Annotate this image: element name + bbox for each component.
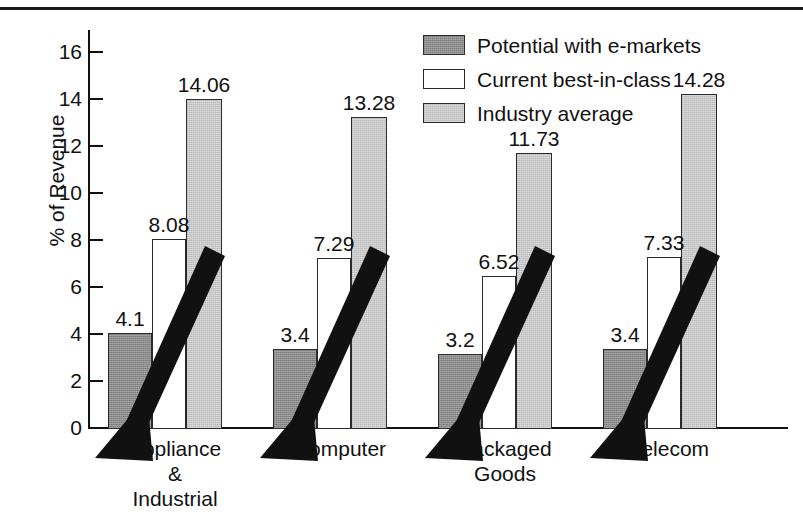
- legend-item-average[interactable]: Industry average: [423, 96, 701, 130]
- bar-computer-average[interactable]: [351, 117, 387, 429]
- bar-packaged-goods-potential[interactable]: [438, 354, 482, 429]
- legend-swatch-potential-icon: [423, 35, 465, 55]
- value-computer-average: 13.28: [327, 92, 411, 113]
- category-label-appliance-industrial: Appliance & Industrial: [85, 436, 265, 511]
- bar-telecom-potential[interactable]: [603, 349, 647, 429]
- y-tick-label-6: 6: [40, 276, 82, 297]
- bar-appliance-current[interactable]: [152, 239, 186, 429]
- value-packaged-goods-current: 6.52: [457, 251, 541, 272]
- bar-computer-potential[interactable]: [273, 349, 317, 429]
- legend-label-current: Current best-in-class: [477, 69, 671, 90]
- value-packaged-goods-potential: 3.2: [418, 329, 502, 350]
- bar-packaged-goods-current[interactable]: [482, 276, 516, 429]
- chart-legend: Potential with e-markets Current best-in…: [423, 28, 701, 130]
- category-label-computer: Computer: [250, 436, 430, 461]
- value-telecom-potential: 3.4: [583, 324, 667, 345]
- y-tick-label-8: 8: [40, 229, 82, 250]
- bar-appliance-average[interactable]: [186, 99, 222, 429]
- legend-label-potential: Potential with e-markets: [477, 35, 701, 56]
- y-tick-label-4: 4: [40, 323, 82, 344]
- y-tick-label-12: 12: [40, 135, 82, 156]
- legend-label-average: Industry average: [477, 103, 633, 124]
- legend-item-current[interactable]: Current best-in-class: [423, 62, 701, 96]
- value-appliance-current: 8.08: [127, 214, 211, 235]
- value-telecom-current: 7.33: [622, 232, 706, 253]
- legend-swatch-current-icon: [423, 69, 465, 89]
- figure-top-rule: [0, 7, 803, 10]
- category-label-line-1: Goods: [415, 461, 595, 486]
- category-label-line-1: &: [85, 461, 265, 486]
- legend-item-potential[interactable]: Potential with e-markets: [423, 28, 701, 62]
- category-label-packaged-goods: Packaged Goods: [415, 436, 595, 486]
- value-packaged-goods-average: 11.73: [492, 128, 576, 149]
- category-label-line-0: Packaged: [415, 436, 595, 461]
- value-appliance-potential: 4.1: [88, 308, 172, 329]
- value-appliance-average: 14.06: [162, 74, 246, 95]
- y-tick-label-0: 0: [40, 417, 82, 438]
- bar-appliance-potential[interactable]: [108, 333, 152, 429]
- category-label-telecom: Telecom: [580, 436, 760, 461]
- category-label-line-0: Computer: [250, 436, 430, 461]
- legend-swatch-average-icon: [423, 103, 465, 123]
- y-tick-label-10: 10: [40, 182, 82, 203]
- y-tick-label-16: 16: [40, 41, 82, 62]
- category-label-line-2: Industrial: [85, 486, 265, 511]
- bar-chart-figure: % of Revenue 16 14 12 10 8 6 4 2 0 4.1 8…: [0, 0, 803, 528]
- category-label-line-0: Telecom: [580, 436, 760, 461]
- y-tick-label-14: 14: [40, 88, 82, 109]
- value-computer-potential: 3.4: [253, 324, 337, 345]
- bar-packaged-goods-average[interactable]: [516, 153, 552, 429]
- category-label-line-0: Appliance: [85, 436, 265, 461]
- bar-telecom-average[interactable]: [681, 94, 717, 429]
- value-computer-current: 7.29: [292, 233, 376, 254]
- y-tick-label-2: 2: [40, 370, 82, 391]
